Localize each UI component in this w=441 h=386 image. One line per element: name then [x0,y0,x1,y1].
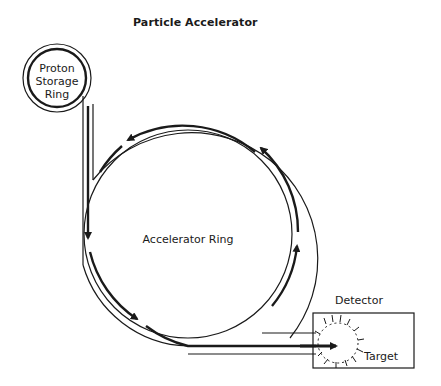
storage-ring-label-3: Ring [45,88,70,101]
accelerator-ring-label: Accelerator Ring [143,233,234,246]
storage-ring-label-2: Storage [35,75,78,88]
target [315,315,364,368]
accelerator-diagram: Proton Storage Ring Detector Target Acce… [0,0,441,386]
storage-ring-label-1: Proton [39,62,74,75]
target-label: Target [363,350,399,363]
detector-label: Detector [335,294,383,307]
